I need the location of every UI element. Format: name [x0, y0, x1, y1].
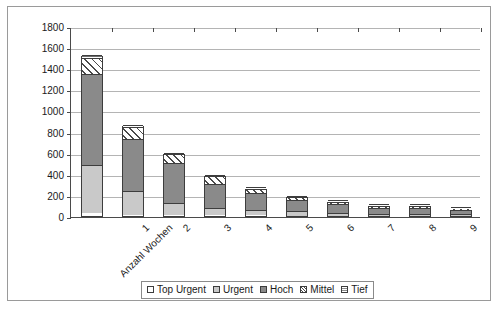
x-tick-label: 4 — [262, 222, 274, 234]
legend-entry[interactable]: Mittel — [300, 284, 334, 295]
x-tick-label: 1 — [139, 222, 151, 234]
legend-swatch-icon — [147, 286, 154, 293]
legend-swatch-icon — [260, 286, 267, 293]
legend-label: Urgent — [223, 284, 253, 295]
legend-entry[interactable]: Urgent — [213, 284, 253, 295]
legend-label: Tief — [351, 284, 367, 295]
legend-entry[interactable]: Hoch — [260, 284, 293, 295]
legend-entry[interactable]: Tief — [341, 284, 367, 295]
legend-swatch-icon — [341, 286, 348, 293]
x-tick-label: 9 — [467, 222, 479, 234]
x-tick-label: 6 — [344, 222, 356, 234]
legend-label: Mittel — [310, 284, 334, 295]
x-tick-label: 3 — [221, 222, 233, 234]
x-tick-label: 2 — [180, 222, 192, 234]
x-tick-label: 8 — [426, 222, 438, 234]
legend-swatch-icon — [213, 286, 220, 293]
chart-frame: 020040060080010001200140016001800 Anzahl… — [7, 6, 491, 301]
legend-label: Top Urgent — [157, 284, 206, 295]
x-tick-label: 7 — [385, 222, 397, 234]
chart-legend: Top UrgentUrgentHochMittelTief — [141, 281, 374, 299]
x-axis-labels: Anzahl Wochen123456789 — [8, 7, 490, 300]
x-tick-label: 5 — [303, 222, 315, 234]
legend-entry[interactable]: Top Urgent — [147, 284, 206, 295]
legend-swatch-icon — [300, 286, 307, 293]
legend-label: Hoch — [270, 284, 293, 295]
